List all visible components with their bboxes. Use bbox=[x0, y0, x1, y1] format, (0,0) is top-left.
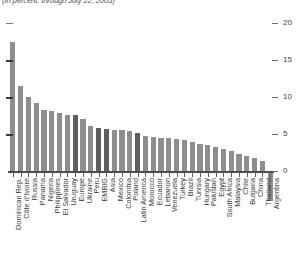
y-axis-label: 0 bbox=[283, 167, 287, 175]
x-tick bbox=[52, 172, 53, 177]
x-tick bbox=[122, 172, 123, 177]
x-tick bbox=[239, 172, 240, 177]
x-tick bbox=[184, 172, 185, 177]
x-tick bbox=[169, 172, 170, 177]
x-axis-label: Tunisia bbox=[195, 178, 202, 201]
y-axis-label: 20 bbox=[283, 19, 292, 27]
bar bbox=[112, 130, 117, 171]
bar bbox=[41, 110, 46, 171]
bar bbox=[174, 139, 179, 171]
bar bbox=[252, 158, 257, 171]
x-axis-label-text: Argentina bbox=[273, 178, 280, 209]
x-axis-label: Argentina bbox=[273, 178, 280, 209]
bar bbox=[260, 161, 265, 171]
x-tick bbox=[200, 172, 201, 177]
bar bbox=[190, 142, 195, 171]
bar bbox=[158, 138, 163, 171]
x-tick bbox=[99, 172, 100, 177]
y-tick-left bbox=[6, 23, 13, 24]
y-tick bbox=[272, 23, 278, 24]
x-tick bbox=[262, 172, 263, 177]
x-tick bbox=[36, 172, 37, 177]
y-axis-label: 15 bbox=[283, 56, 292, 64]
x-tick bbox=[208, 172, 209, 177]
bar bbox=[34, 103, 39, 171]
x-tick bbox=[247, 172, 248, 177]
bar bbox=[127, 131, 132, 171]
x-tick bbox=[270, 172, 271, 177]
bar bbox=[80, 119, 85, 171]
bar bbox=[65, 115, 70, 171]
y-tick-left bbox=[6, 97, 13, 99]
bar bbox=[236, 154, 241, 171]
y-axis-label: 10 bbox=[283, 93, 292, 101]
bar bbox=[104, 129, 109, 171]
x-tick bbox=[21, 172, 22, 177]
y-tick bbox=[272, 134, 278, 135]
bar bbox=[119, 130, 124, 171]
x-axis-label-text: Malaysia bbox=[234, 178, 241, 207]
x-tick bbox=[130, 172, 131, 177]
x-tick bbox=[106, 172, 107, 177]
x-tick bbox=[145, 172, 146, 177]
bar bbox=[96, 128, 101, 171]
x-tick bbox=[177, 172, 178, 177]
x-tick bbox=[192, 172, 193, 177]
x-axis-label-text: Ecuador bbox=[156, 178, 163, 205]
x-axis-label-text: Mexico bbox=[117, 178, 124, 201]
x-tick bbox=[75, 172, 76, 177]
x-tick bbox=[216, 172, 217, 177]
x-tick bbox=[161, 172, 162, 177]
x-tick bbox=[28, 172, 29, 177]
x-tick bbox=[138, 172, 139, 177]
bar bbox=[57, 113, 62, 171]
y-tick bbox=[272, 60, 278, 61]
x-tick bbox=[67, 172, 68, 177]
x-axis-label: Malaysia bbox=[234, 178, 241, 207]
x-tick bbox=[60, 172, 61, 177]
bar bbox=[166, 138, 171, 171]
x-tick bbox=[231, 172, 232, 177]
x-axis-label: Ecuador bbox=[156, 178, 163, 205]
x-tick bbox=[91, 172, 92, 177]
bar bbox=[221, 149, 226, 171]
bar bbox=[229, 151, 234, 171]
x-tick bbox=[153, 172, 154, 177]
bar bbox=[49, 111, 54, 171]
x-tick bbox=[44, 172, 45, 177]
x-tick bbox=[255, 172, 256, 177]
bar bbox=[88, 126, 93, 171]
x-tick bbox=[13, 172, 14, 177]
x-axis-label: Mexico bbox=[117, 178, 124, 201]
x-axis-ticks bbox=[9, 172, 274, 177]
x-tick bbox=[83, 172, 84, 177]
bar-series bbox=[9, 14, 274, 192]
bar bbox=[197, 144, 202, 171]
y-tick-left bbox=[6, 60, 13, 62]
bar bbox=[151, 137, 156, 171]
bar bbox=[18, 86, 23, 171]
y-axis-label: 5 bbox=[283, 130, 287, 138]
bar bbox=[73, 115, 78, 171]
bar bbox=[182, 140, 187, 171]
x-axis-labels: Dominican Rep.Côte d'IvoireRussiaPanamaN… bbox=[9, 178, 274, 274]
x-axis-label-text: Tunisia bbox=[195, 178, 202, 201]
y-tick bbox=[272, 97, 278, 98]
x-tick bbox=[223, 172, 224, 177]
chart-subtitle: (In percent, through July 22, 2005) bbox=[2, 0, 115, 6]
bar bbox=[143, 136, 148, 171]
bar bbox=[205, 145, 210, 171]
bar bbox=[244, 156, 249, 171]
y-tick-left bbox=[6, 134, 13, 136]
chart-figure: (In percent, through July 22, 2005) 2015… bbox=[0, 0, 303, 274]
bar bbox=[135, 133, 140, 171]
bar bbox=[213, 147, 218, 171]
plot-area bbox=[9, 14, 274, 192]
bar bbox=[26, 97, 31, 171]
x-tick bbox=[114, 172, 115, 177]
